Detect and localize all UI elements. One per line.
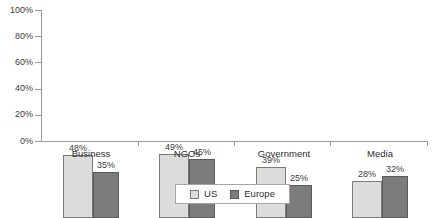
- x-axis-label-media: Media: [340, 148, 420, 159]
- bar-chart: 100% 80% 60% 40% 20% 0% 48% 35% Business…: [0, 0, 437, 218]
- x-axis-label-business: Business: [51, 148, 131, 159]
- y-axis-line: [41, 10, 42, 141]
- legend-item-europe[interactable]: Europe: [230, 189, 275, 199]
- legend-swatch-europe-icon: [230, 190, 239, 199]
- x-axis-separator-tick-2: [234, 141, 235, 146]
- x-axis-label-ngos: NGOs: [147, 148, 227, 159]
- legend-label-europe: Europe: [244, 189, 275, 199]
- x-axis-label-government: Government: [244, 148, 324, 159]
- y-axis-label-100: 100%: [0, 6, 33, 15]
- y-axis-label-40: 40%: [0, 84, 33, 93]
- x-axis-separator-tick-3: [330, 141, 331, 146]
- y-axis-labels: 100% 80% 60% 40% 20% 0%: [0, 0, 33, 218]
- y-axis-label-80: 80%: [0, 32, 33, 41]
- bar-business-europe[interactable]: [93, 172, 119, 218]
- legend-label-us: US: [204, 189, 217, 199]
- legend-swatch-us-icon: [190, 190, 199, 199]
- bar-media-europe[interactable]: [382, 176, 408, 218]
- chart-legend: US Europe: [175, 184, 290, 204]
- y-axis-label-20: 20%: [0, 110, 33, 119]
- legend-item-us[interactable]: US: [190, 189, 217, 199]
- y-axis-label-60: 60%: [0, 58, 33, 67]
- value-label-business-europe: 35%: [89, 161, 123, 170]
- x-axis-separator-tick-1: [138, 141, 139, 146]
- x-axis-end-tick: [427, 141, 428, 146]
- value-label-government-europe: 25%: [282, 174, 316, 183]
- value-label-media-europe: 32%: [378, 165, 412, 174]
- bar-media-us[interactable]: [352, 181, 382, 218]
- y-axis-label-0: 0%: [0, 137, 33, 146]
